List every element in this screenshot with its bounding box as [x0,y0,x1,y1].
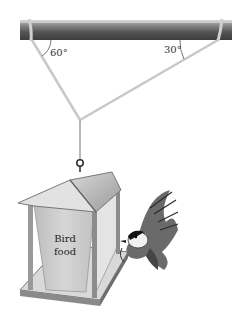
bird-feeder-diagram: 60° 30° Bird food [0,0,245,319]
hook-icon [77,160,83,172]
angle-label-right: 30° [164,44,182,55]
bird-food-label-line1: Bird [47,232,83,245]
bird-food-label-line2: food [47,245,83,258]
angle-label-left: 60° [50,47,68,58]
bird-food-label: Bird food [47,232,83,258]
pipe [20,20,232,40]
bird-icon [120,190,178,270]
diagram-graphics [0,0,245,319]
right-cord [80,40,218,120]
